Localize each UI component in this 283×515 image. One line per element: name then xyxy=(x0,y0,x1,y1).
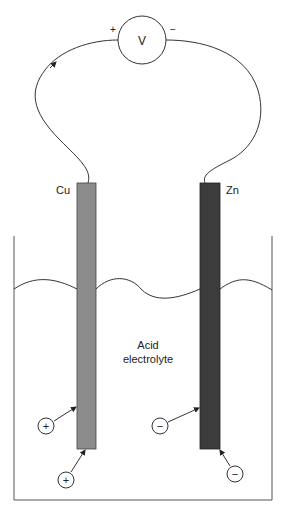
negative-terminal: − xyxy=(170,24,176,35)
positive-ion-2: + xyxy=(58,450,85,488)
copper-electrode xyxy=(77,183,96,449)
beaker xyxy=(14,236,272,500)
negative-ion-1: − xyxy=(152,408,199,434)
positive-ion-1: + xyxy=(38,407,76,434)
svg-text:+: + xyxy=(43,420,49,432)
voltmeter-symbol: V xyxy=(138,34,146,48)
svg-text:−: − xyxy=(232,468,238,480)
negative-ion-2: − xyxy=(220,450,243,482)
svg-text:−: − xyxy=(157,420,163,432)
positive-terminal: + xyxy=(110,24,116,35)
wire-right xyxy=(166,40,261,183)
electrolyte-label-line2: electrolyte xyxy=(123,353,173,365)
electrolyte-label-line1: Acid xyxy=(137,339,158,351)
zinc-electrode xyxy=(200,183,220,449)
svg-text:+: + xyxy=(63,474,69,486)
zinc-label: Zn xyxy=(226,184,239,196)
wire-left xyxy=(35,40,118,183)
galvanic-cell-diagram: V + − Cu Zn Acid electrolyte + + − − xyxy=(0,0,283,515)
electrolyte-surface xyxy=(14,279,272,299)
copper-label: Cu xyxy=(56,184,70,196)
